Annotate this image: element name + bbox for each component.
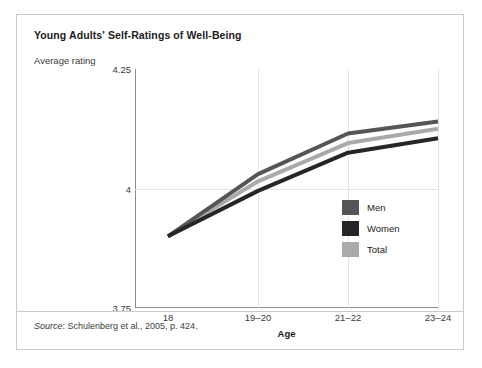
legend-item-total: Total (342, 239, 400, 260)
legend-item-men: Men (342, 197, 400, 218)
legend-label: Total (367, 244, 387, 255)
y-axis-tick-labels: 3.7544.25 (77, 69, 131, 308)
y-tick-label: 4.25 (113, 64, 132, 75)
source-text: : Schulenberg et al., 2005, p. 424. (63, 321, 198, 331)
source-label: Source (34, 321, 63, 331)
source-divider (17, 311, 463, 312)
x-tick-label: 21–22 (335, 312, 361, 323)
legend-swatch-men (342, 200, 359, 215)
legend: MenWomenTotal (342, 197, 400, 260)
gridline-vertical (438, 69, 439, 308)
page-title: Young Adults' Self-Ratings of Well-Being (34, 29, 242, 41)
figure-card: Young Adults' Self-Ratings of Well-Being… (16, 14, 464, 350)
source-note: Source: Schulenberg et al., 2005, p. 424… (34, 321, 198, 331)
legend-swatch-women (342, 221, 359, 236)
plot-area (135, 69, 438, 308)
legend-label: Women (367, 223, 400, 234)
legend-item-women: Women (342, 218, 400, 239)
legend-swatch-total (342, 242, 359, 257)
legend-label: Men (367, 202, 385, 213)
x-tick-label: 19–20 (245, 312, 271, 323)
series-lines (135, 69, 438, 308)
y-tick-label: 4 (126, 183, 131, 194)
x-tick-label: 23–24 (425, 312, 451, 323)
y-axis-title: Average rating (34, 55, 96, 66)
